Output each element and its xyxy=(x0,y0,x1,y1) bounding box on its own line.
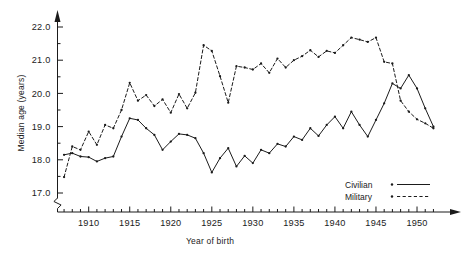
data-point-military xyxy=(260,62,262,64)
data-point-military xyxy=(367,41,369,43)
data-point-military xyxy=(145,94,147,96)
data-point-civilian xyxy=(120,135,122,137)
data-point-military xyxy=(293,59,295,61)
data-point-military xyxy=(227,102,229,104)
data-point-civilian xyxy=(153,134,155,136)
legend-label-civilian: Civilian xyxy=(345,180,372,190)
x-axis-tick-label: 1945 xyxy=(365,218,386,228)
data-point-military xyxy=(129,82,131,84)
data-point-civilian xyxy=(202,152,204,154)
data-point-civilian xyxy=(219,157,221,159)
data-point-civilian xyxy=(317,135,319,137)
data-point-military xyxy=(71,145,73,147)
data-point-civilian xyxy=(96,160,98,162)
y-axis-title: Median age (years) xyxy=(16,63,26,163)
data-point-civilian xyxy=(408,74,410,76)
data-point-military xyxy=(383,61,385,63)
series-line-civilian xyxy=(64,75,433,172)
data-point-military xyxy=(137,100,139,102)
x-axis-tick-label: 1920 xyxy=(160,218,181,228)
data-point-military xyxy=(342,44,344,46)
series-line-military xyxy=(64,38,433,177)
data-point-civilian xyxy=(71,152,73,154)
data-point-military xyxy=(112,127,114,129)
data-point-military xyxy=(202,44,204,46)
data-point-civilian xyxy=(358,124,360,126)
data-point-civilian xyxy=(63,154,65,156)
x-axis-title: Year of birth xyxy=(186,236,234,246)
data-point-civilian xyxy=(334,115,336,117)
legend-label-military: Military xyxy=(345,192,372,202)
y-axis-tick-label: 20.0 xyxy=(32,89,51,99)
data-point-civilian xyxy=(161,149,163,151)
data-point-civilian xyxy=(301,139,303,141)
data-point-military xyxy=(432,127,434,129)
x-axis-tick-label: 1935 xyxy=(283,218,304,228)
data-point-civilian xyxy=(129,117,131,119)
data-point-civilian xyxy=(285,145,287,147)
data-point-civilian xyxy=(211,171,213,173)
data-point-civilian xyxy=(326,124,328,126)
x-axis-tick-label: 1940 xyxy=(324,218,345,228)
data-point-military xyxy=(120,109,122,111)
x-axis-tick-label: 1930 xyxy=(242,218,263,228)
legend-marker-civilian xyxy=(391,183,393,185)
data-point-military xyxy=(161,98,163,100)
data-point-military xyxy=(334,52,336,54)
data-point-civilian xyxy=(194,137,196,139)
data-point-civilian xyxy=(227,147,229,149)
data-point-military xyxy=(358,38,360,40)
data-point-military xyxy=(424,122,426,124)
data-point-civilian xyxy=(375,119,377,121)
data-point-military xyxy=(153,105,155,107)
data-point-military xyxy=(244,66,246,68)
x-axis-tick-label: 1925 xyxy=(201,218,222,228)
data-point-military xyxy=(170,112,172,114)
data-point-civilian xyxy=(79,155,81,157)
data-point-military xyxy=(79,149,81,151)
data-point-military xyxy=(309,49,311,51)
y-axis-arrowhead xyxy=(55,10,61,22)
chart-plot-area: 17.018.019.020.021.022.01910191519201925… xyxy=(0,0,464,258)
data-point-military xyxy=(350,36,352,38)
data-point-military xyxy=(391,62,393,64)
x-axis-arrowhead xyxy=(450,209,461,215)
data-point-military xyxy=(416,118,418,120)
y-axis-tick-label: 18.0 xyxy=(32,155,51,165)
data-point-military xyxy=(88,130,90,132)
data-point-military xyxy=(301,55,303,57)
data-point-civilian xyxy=(88,156,90,158)
data-point-civilian xyxy=(268,152,270,154)
y-axis-tick-label: 17.0 xyxy=(32,188,51,198)
data-point-civilian xyxy=(391,82,393,84)
data-point-civilian xyxy=(309,127,311,129)
data-point-military xyxy=(326,50,328,52)
data-point-military xyxy=(375,36,377,38)
data-point-military xyxy=(194,92,196,94)
y-axis-tick-label: 19.0 xyxy=(32,122,51,132)
data-point-civilian xyxy=(170,140,172,142)
data-point-military xyxy=(235,65,237,67)
data-point-civilian xyxy=(416,87,418,89)
data-point-military xyxy=(399,100,401,102)
data-point-military xyxy=(408,111,410,113)
data-point-civilian xyxy=(186,134,188,136)
data-point-civilian xyxy=(276,143,278,145)
data-point-civilian xyxy=(145,127,147,129)
data-point-military xyxy=(317,56,319,58)
data-point-civilian xyxy=(260,149,262,151)
data-point-military xyxy=(96,144,98,146)
y-axis-tick-label: 21.0 xyxy=(32,55,51,65)
data-point-civilian xyxy=(244,155,246,157)
data-point-civilian xyxy=(383,102,385,104)
data-point-military xyxy=(178,93,180,95)
data-point-civilian xyxy=(178,133,180,135)
x-axis-tick-label: 1915 xyxy=(119,218,140,228)
data-point-military xyxy=(186,107,188,109)
data-point-civilian xyxy=(342,127,344,129)
data-point-military xyxy=(219,75,221,77)
data-point-civilian xyxy=(293,135,295,137)
data-point-civilian xyxy=(137,119,139,121)
data-point-military xyxy=(104,124,106,126)
chart-figure: 17.018.019.020.021.022.01910191519201925… xyxy=(0,0,464,258)
